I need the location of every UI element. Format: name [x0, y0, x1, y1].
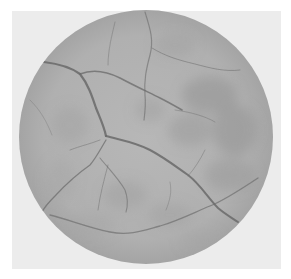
fundus-image [0, 0, 291, 279]
